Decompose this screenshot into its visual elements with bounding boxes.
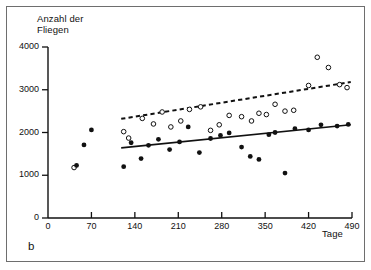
point-filled <box>186 125 191 130</box>
point-open <box>249 119 254 124</box>
point-open <box>257 111 262 116</box>
trendline-solid <box>121 125 351 148</box>
point-filled <box>283 171 288 176</box>
point-open <box>239 114 244 119</box>
trendlines <box>121 82 351 148</box>
x-tick-label: 420 <box>289 221 329 231</box>
point-filled <box>306 128 311 133</box>
point-filled <box>257 157 262 162</box>
x-tick-label: 350 <box>245 221 285 231</box>
point-filled <box>129 140 134 145</box>
point-open <box>169 125 174 130</box>
point-open <box>151 122 156 127</box>
point-open <box>306 83 311 88</box>
point-open <box>178 119 183 124</box>
point-filled <box>121 164 126 169</box>
point-filled <box>239 145 244 150</box>
trendline-dashed <box>121 82 351 119</box>
point-filled <box>82 142 87 147</box>
point-open <box>140 116 145 121</box>
point-filled <box>89 128 94 133</box>
point-open <box>345 85 350 90</box>
point-open <box>187 107 192 112</box>
point-filled <box>208 136 213 141</box>
point-open <box>291 108 296 113</box>
point-open <box>160 110 165 115</box>
x-tick-label: 0 <box>28 221 68 231</box>
point-open <box>273 102 278 107</box>
point-open <box>337 82 342 87</box>
y-tick-label: 4000 <box>0 41 39 51</box>
y-tick-label: 3000 <box>0 84 39 94</box>
point-open <box>227 113 232 118</box>
point-filled <box>146 143 151 148</box>
x-tick-label: 280 <box>202 221 242 231</box>
x-tick-label: 70 <box>71 221 111 231</box>
point-open <box>315 55 320 60</box>
point-open <box>198 105 203 110</box>
point-open <box>217 123 222 128</box>
x-tick-label: 140 <box>115 221 155 231</box>
y-tick-marks <box>42 47 48 218</box>
point-filled <box>273 130 278 135</box>
panel-letter-label: b <box>28 240 34 252</box>
y-tick-label: 1000 <box>0 169 39 179</box>
point-filled <box>227 131 232 136</box>
point-filled <box>197 150 202 155</box>
point-open <box>208 128 213 133</box>
point-filled <box>74 163 79 168</box>
point-filled <box>167 147 172 152</box>
point-filled <box>156 137 161 142</box>
point-open <box>264 112 269 117</box>
point-filled <box>139 156 144 161</box>
point-filled <box>218 133 223 138</box>
point-open <box>283 109 288 114</box>
point-open <box>121 129 126 134</box>
point-filled <box>293 126 298 131</box>
point-filled <box>319 122 324 127</box>
x-tick-marks <box>91 212 352 218</box>
axes <box>48 47 352 218</box>
y-tick-label: 2000 <box>0 127 39 137</box>
point-open <box>126 136 131 141</box>
point-filled <box>177 140 182 145</box>
x-tick-label: 210 <box>158 221 198 231</box>
point-filled <box>248 154 253 159</box>
point-filled <box>335 124 340 129</box>
data-points <box>72 55 351 176</box>
point-filled <box>266 132 271 137</box>
x-tick-label: 490 <box>332 221 371 231</box>
figure-panel: Anzahl der Fliegen Tage 0100020003000400… <box>0 0 371 270</box>
point-filled <box>346 122 351 127</box>
point-open <box>326 65 331 70</box>
series-open-circle <box>72 55 350 170</box>
